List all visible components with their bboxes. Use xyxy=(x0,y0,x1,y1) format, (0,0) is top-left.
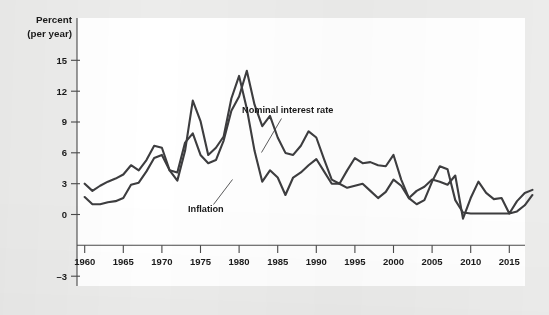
x-axis: 1960 1965 1970 1975 1980 1985 1990 1995 … xyxy=(74,245,525,267)
x-tick-label-1960: 1960 xyxy=(74,256,95,267)
y-axis-title-line1: Percent xyxy=(36,14,73,25)
x-tick-label-1985: 1985 xyxy=(267,256,289,267)
y-tick-label-12: 12 xyxy=(56,86,67,97)
x-tick-label-1970: 1970 xyxy=(151,256,172,267)
y-tick-label-minus3: –3 xyxy=(56,271,67,282)
x-tick-label-1990: 1990 xyxy=(306,256,327,267)
y-tick-label-3: 3 xyxy=(62,178,67,189)
y-tick-label-0: 0 xyxy=(62,209,67,220)
series-label-nominal-interest-rate: Nominal interest rate xyxy=(242,105,333,115)
y-axis: 15 12 9 6 3 0 –3 Percent (per year) xyxy=(27,14,80,286)
series-label-inflation: Inflation xyxy=(188,204,224,214)
leader-line-inflation xyxy=(214,180,233,205)
x-tick-label-2010: 2010 xyxy=(460,256,481,267)
inflation-nominal-interest-rate-chart: 15 12 9 6 3 0 –3 Percent (per year) 1960 xyxy=(0,0,549,315)
x-tick-label-1980: 1980 xyxy=(229,256,250,267)
series-line-inflation xyxy=(85,76,533,219)
series-lines xyxy=(85,71,533,219)
x-tick-label-2000: 2000 xyxy=(383,256,404,267)
x-tick-label-2015: 2015 xyxy=(499,256,521,267)
y-tick-label-9: 9 xyxy=(62,116,67,127)
series-line-nominal-interest-rate xyxy=(85,71,533,214)
y-axis-title-line2: (per year) xyxy=(27,28,72,39)
y-tick-label-6: 6 xyxy=(62,147,67,158)
y-tick-label-15: 15 xyxy=(56,55,67,66)
x-tick-label-2005: 2005 xyxy=(422,256,444,267)
x-tick-label-1965: 1965 xyxy=(113,256,135,267)
x-tick-label-1975: 1975 xyxy=(190,256,212,267)
x-tick-label-1995: 1995 xyxy=(344,256,366,267)
figure-container: 15 12 9 6 3 0 –3 Percent (per year) 1960 xyxy=(0,0,549,315)
